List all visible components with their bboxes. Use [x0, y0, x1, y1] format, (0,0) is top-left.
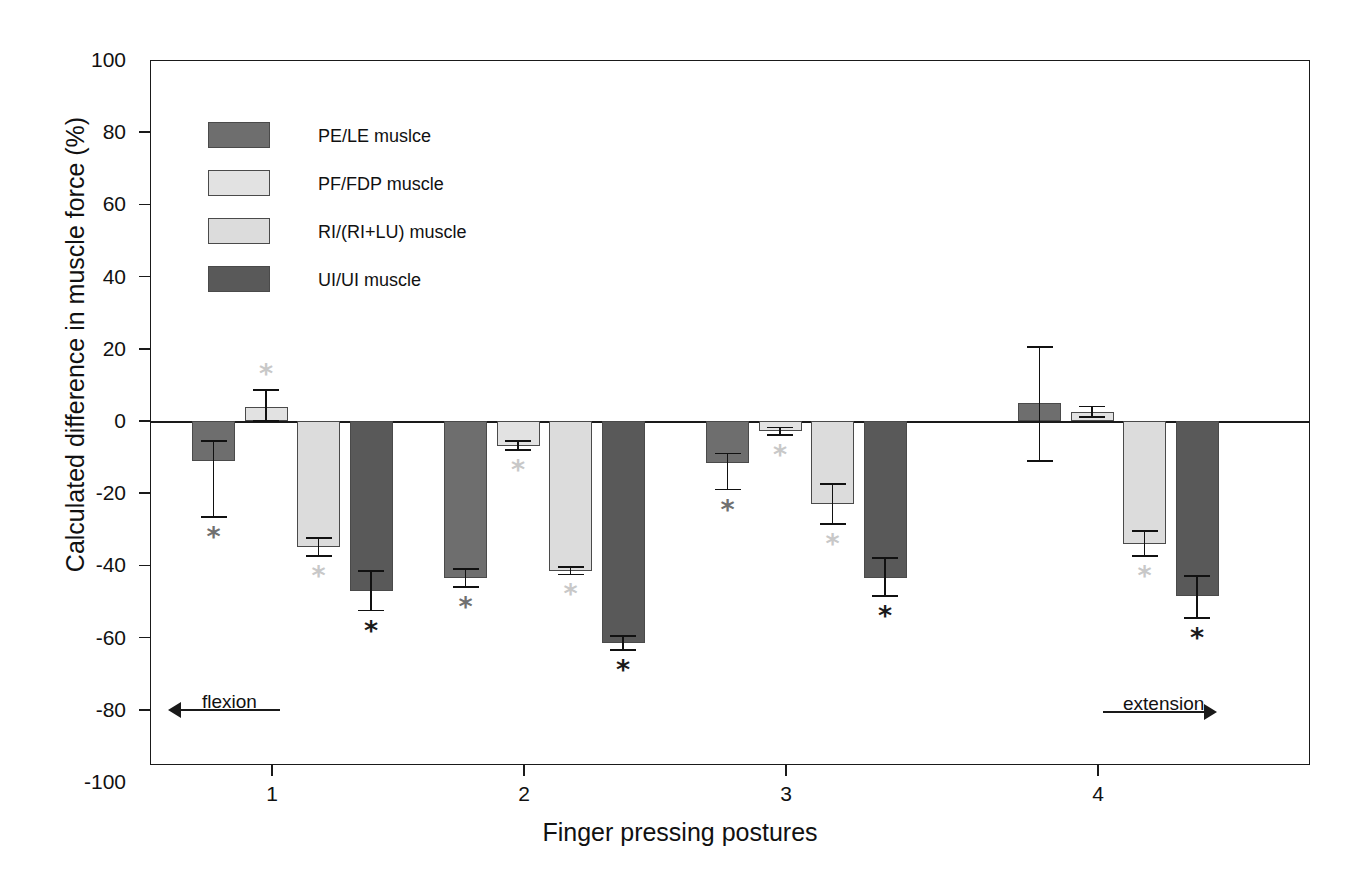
y-tick [139, 565, 151, 567]
y-tick-label: -100 [40, 771, 126, 792]
error-bar-cap [358, 610, 384, 612]
error-bar-cap [253, 389, 279, 391]
error-bar [370, 571, 372, 611]
error-bar-cap [505, 449, 531, 451]
significance-marker: * [304, 562, 334, 589]
error-bar-cap [201, 440, 227, 442]
bar [350, 421, 393, 591]
x-tick-label: 3 [766, 782, 806, 806]
error-bar [318, 538, 320, 556]
significance-marker: * [765, 441, 795, 468]
error-bar [265, 390, 267, 421]
extension-annotation: extension [1103, 696, 1217, 726]
error-bar-cap [610, 649, 636, 651]
error-bar [622, 636, 624, 650]
y-tick [139, 709, 151, 711]
error-bar [1144, 531, 1146, 556]
legend-swatch [208, 122, 270, 148]
error-bar-cap [1079, 416, 1105, 418]
error-bar-cap [872, 557, 898, 559]
chart-figure: 100806040200-20-40-60-80-100 Calculated … [0, 0, 1360, 872]
error-bar-cap [453, 568, 479, 570]
arrow-right-icon [1204, 704, 1217, 720]
error-bar [727, 453, 729, 489]
error-bar-cap [715, 489, 741, 491]
significance-marker: * [1182, 624, 1212, 651]
bar [1176, 421, 1219, 596]
y-tick [139, 276, 151, 278]
error-bar-cap [558, 574, 584, 576]
legend-label: PF/FDP muscle [318, 174, 444, 195]
bar [864, 421, 907, 578]
x-tick [785, 765, 787, 776]
x-tick-label: 2 [504, 782, 544, 806]
y-tick [139, 420, 151, 422]
error-bar-cap [1184, 575, 1210, 577]
y-tick-label: -60 [40, 627, 126, 648]
bar [1123, 421, 1166, 544]
significance-marker: * [356, 617, 386, 644]
y-tick [139, 204, 151, 206]
error-bar-cap [1132, 555, 1158, 557]
error-bar-cap [505, 440, 531, 442]
error-bar-cap [358, 570, 384, 572]
x-tick-label: 1 [252, 782, 292, 806]
error-bar-cap [306, 537, 332, 539]
error-bar-cap [610, 635, 636, 637]
error-bar-cap [253, 420, 279, 422]
error-bar-cap [1027, 460, 1053, 462]
bar [602, 421, 645, 643]
y-axis-title: Calculated difference in muscle force (%… [61, 65, 90, 625]
error-bar-cap [201, 516, 227, 518]
significance-marker: * [870, 602, 900, 629]
significance-marker: * [451, 593, 481, 620]
flexion-annotation: flexion [168, 694, 280, 724]
y-tick-label: -80 [40, 699, 126, 720]
legend-label: PE/LE muslce [318, 126, 431, 147]
error-bar [465, 569, 467, 587]
error-bar [1196, 576, 1198, 618]
y-tick [139, 348, 151, 350]
error-bar [832, 484, 834, 524]
significance-marker: * [503, 456, 533, 483]
error-bar-cap [820, 483, 846, 485]
x-tick [1097, 765, 1099, 776]
error-bar [1039, 347, 1041, 461]
x-tick [523, 765, 525, 776]
error-bar-cap [715, 453, 741, 455]
extension-label: extension [1123, 693, 1204, 715]
error-bar-cap [306, 555, 332, 557]
significance-marker: * [713, 496, 743, 523]
x-tick [271, 765, 273, 776]
error-bar [884, 558, 886, 596]
error-bar-cap [1184, 617, 1210, 619]
significance-marker: * [608, 656, 638, 683]
y-tick [139, 637, 151, 639]
legend-swatch [208, 218, 270, 244]
bar [297, 421, 340, 547]
bar [444, 421, 487, 578]
legend-swatch [208, 266, 270, 292]
significance-marker: * [1130, 562, 1160, 589]
x-axis-title: Finger pressing postures [430, 818, 930, 847]
plot-area [150, 60, 1310, 765]
y-tick [139, 492, 151, 494]
significance-marker: * [199, 523, 229, 550]
significance-marker: * [556, 580, 586, 607]
error-bar-cap [1079, 406, 1105, 408]
x-tick-label: 4 [1078, 782, 1118, 806]
error-bar-cap [453, 586, 479, 588]
y-tick [139, 131, 151, 133]
error-bar-cap [1027, 346, 1053, 348]
error-bar-cap [1132, 530, 1158, 532]
significance-marker: * [818, 530, 848, 557]
significance-marker: * [251, 360, 281, 387]
bar [549, 421, 592, 571]
legend-label: RI/(RI+LU) muscle [318, 222, 467, 243]
legend-swatch [208, 170, 270, 196]
error-bar-cap [820, 523, 846, 525]
error-bar-cap [872, 595, 898, 597]
legend-label: UI/UI muscle [318, 270, 421, 291]
flexion-label: flexion [202, 691, 257, 713]
error-bar-cap [767, 427, 793, 429]
